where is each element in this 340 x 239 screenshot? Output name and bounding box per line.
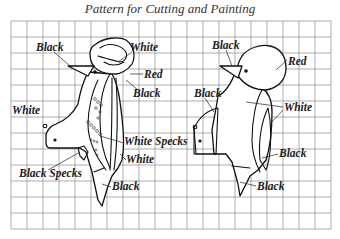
label-right-head-red: Red bbox=[287, 55, 307, 67]
label-left-belly-white: White bbox=[126, 153, 154, 165]
right-woodpecker-pattern bbox=[193, 45, 287, 196]
label-left-crest-red: Red bbox=[143, 68, 163, 80]
label-right-beak-black: Black bbox=[211, 39, 240, 51]
label-left-white-specks: White Specks bbox=[124, 135, 188, 148]
label-left-cheek-black: Black bbox=[132, 87, 161, 99]
label-right-tail-black: Black bbox=[256, 180, 285, 192]
label-left-tail-black: Black bbox=[111, 180, 140, 192]
label-left-back-white: White bbox=[12, 104, 40, 116]
label-right-back-black: Black bbox=[193, 87, 222, 99]
label-right-chest-white: White bbox=[284, 101, 312, 113]
label-left-black-specks: Black Specks bbox=[18, 167, 82, 180]
label-left-beak-black: Black bbox=[35, 41, 64, 53]
label-left-head-white: White bbox=[130, 41, 158, 53]
label-right-wing-black: Black bbox=[278, 147, 307, 159]
pattern-diagram: Black White Red Black White White Specks… bbox=[0, 0, 340, 239]
